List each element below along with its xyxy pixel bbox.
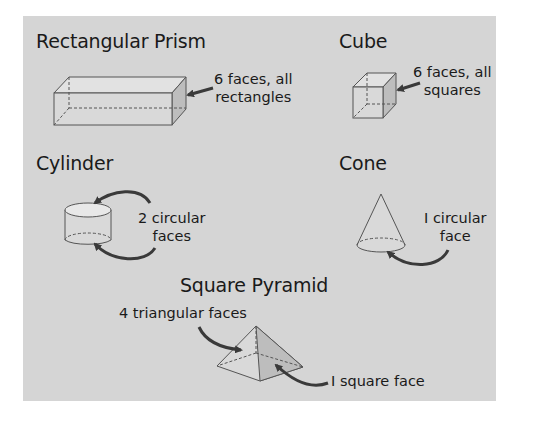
cone-label-line1: I circular [424, 209, 487, 227]
cylinder-icon [65, 203, 111, 244]
cube-label-line2: squares [413, 81, 491, 99]
square-pyramid-title: Square Pyramid [180, 274, 328, 296]
square-pyramid-label-triangular: 4 triangular faces [119, 304, 247, 322]
arrow-cylinder-top [95, 192, 150, 203]
arrow-cylinder-bottom [95, 244, 155, 259]
cube-label: 6 faces, all squares [413, 63, 491, 99]
rectangular-prism-label-line1: 6 faces, all [214, 70, 292, 88]
cone-title: Cone [339, 152, 387, 174]
rectangular-prism-label-line2: rectangles [214, 88, 292, 106]
cube-title: Cube [339, 30, 387, 52]
cylinder-label-line2: faces [138, 227, 206, 245]
rectangular-prism-icon [54, 77, 186, 125]
cone-label: I circular face [424, 209, 487, 245]
rectangular-prism-label: 6 faces, all rectangles [214, 70, 292, 106]
cylinder-label-line1: 2 circular [138, 209, 206, 227]
arrow-prism [188, 88, 213, 95]
cylinder-title: Cylinder [36, 152, 113, 174]
cone-icon [357, 194, 405, 252]
arrow-cone [388, 250, 448, 265]
cone-label-line2: face [424, 227, 487, 245]
cube-label-line1: 6 faces, all [413, 63, 491, 81]
square-pyramid-icon [217, 326, 303, 381]
square-pyramid-label-square: I square face [331, 372, 425, 390]
rectangular-prism-title: Rectangular Prism [36, 30, 206, 52]
cube-icon [353, 73, 396, 118]
cylinder-label: 2 circular faces [138, 209, 206, 245]
arrow-pyramid-triangular [199, 327, 241, 350]
